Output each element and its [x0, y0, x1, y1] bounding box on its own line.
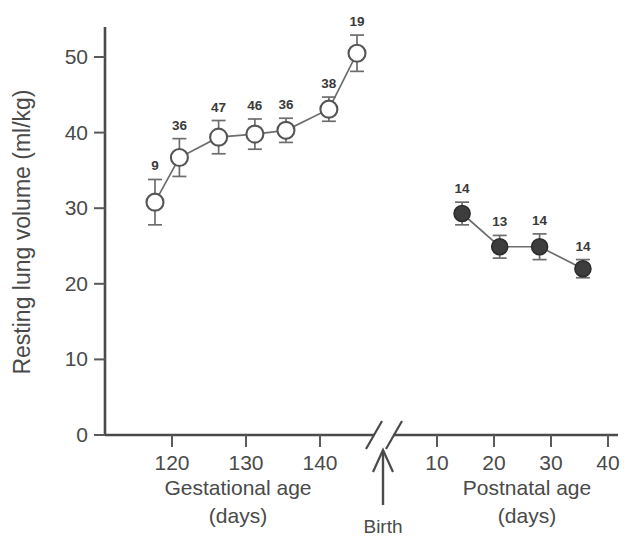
x-tick-label-postnatal: 20	[482, 451, 505, 474]
lung-volume-chart: 01020304050 12013014010203040 9364746363…	[0, 0, 641, 555]
postnatal-axis-label: Postnatal age	[463, 476, 591, 499]
axes-group	[105, 27, 618, 449]
gestational-axis-label: Gestational age	[164, 476, 311, 499]
birth-label: Birth	[363, 516, 402, 537]
gestational-axis-sublabel: (days)	[209, 504, 267, 527]
sample-size-label: 38	[321, 76, 337, 91]
series-connector-line	[462, 213, 583, 268]
sample-size-label: 19	[349, 14, 364, 29]
y-tick-label: 50	[65, 45, 88, 68]
y-tick-label: 10	[65, 347, 88, 370]
birth-arrow-group	[373, 450, 393, 505]
chart-figure: 01020304050 12013014010203040 9364746363…	[0, 0, 641, 555]
y-tick-label: 0	[76, 423, 88, 446]
y-tick-group: 01020304050	[65, 45, 105, 446]
series-postnatal: 14131414	[454, 181, 591, 278]
data-point-open-circle	[246, 126, 263, 143]
data-point-open-circle	[210, 129, 227, 146]
y-axis-title: Resting lung volume (ml/kg)	[9, 89, 35, 374]
data-point-open-circle	[277, 122, 294, 139]
sample-size-label: 36	[172, 118, 188, 133]
sample-size-label: 36	[278, 97, 294, 112]
data-point-open-circle	[146, 194, 163, 211]
data-point-filled-circle	[575, 261, 591, 277]
data-point-filled-circle	[492, 239, 508, 255]
data-point-filled-circle	[532, 239, 548, 255]
y-tick-label: 20	[65, 272, 88, 295]
sample-size-label: 14	[455, 181, 471, 196]
data-point-open-circle	[320, 101, 337, 118]
series-gestational: 9364746363819	[146, 14, 365, 225]
x-tick-label-postnatal: 10	[425, 451, 448, 474]
sample-size-label: 47	[211, 100, 226, 115]
sample-size-label: 14	[532, 213, 548, 228]
data-point-open-circle	[349, 45, 366, 62]
y-tick-label: 40	[65, 121, 88, 144]
data-point-filled-circle	[454, 205, 470, 221]
x-tick-label-postnatal: 30	[539, 451, 562, 474]
x-tick-label-gestational: 130	[228, 451, 263, 474]
x-tick-label-gestational: 120	[154, 451, 189, 474]
sample-size-label: 46	[247, 98, 263, 113]
sample-size-label: 13	[492, 214, 508, 229]
x-tick-label-postnatal: 40	[596, 451, 619, 474]
sample-size-label: 14	[575, 239, 591, 254]
y-tick-label: 30	[65, 196, 88, 219]
x-tick-label-gestational: 140	[302, 451, 337, 474]
sample-size-label: 9	[151, 158, 159, 173]
x-tick-group: 12013014010203040	[154, 435, 619, 474]
data-point-open-circle	[171, 149, 188, 166]
postnatal-axis-sublabel: (days)	[498, 504, 556, 527]
